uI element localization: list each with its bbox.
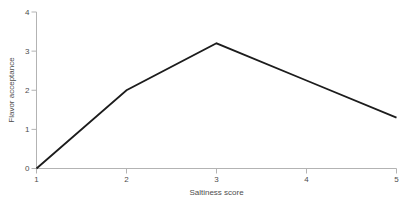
data-series-group [37,43,397,168]
y-axis-title: Flavor acceptance [7,57,16,123]
y-tick-label: 2 [25,86,30,95]
chart-canvas: 1234501234 Saltiness score Flavor accept… [0,0,411,206]
x-tick-label: 4 [304,175,309,184]
x-tick-label: 1 [34,175,39,184]
y-tick-label: 4 [25,8,30,17]
x-axis-title: Saltiness score [189,188,244,197]
y-tick-label: 1 [25,125,30,134]
x-tick-label: 5 [394,175,399,184]
y-tick-label: 3 [25,47,30,56]
y-tick-label: 0 [25,164,30,173]
x-tick-label: 2 [124,175,129,184]
data-line [37,43,397,168]
chart-figure: 1234501234 Saltiness score Flavor accept… [0,0,411,206]
x-tick-label: 3 [214,175,219,184]
